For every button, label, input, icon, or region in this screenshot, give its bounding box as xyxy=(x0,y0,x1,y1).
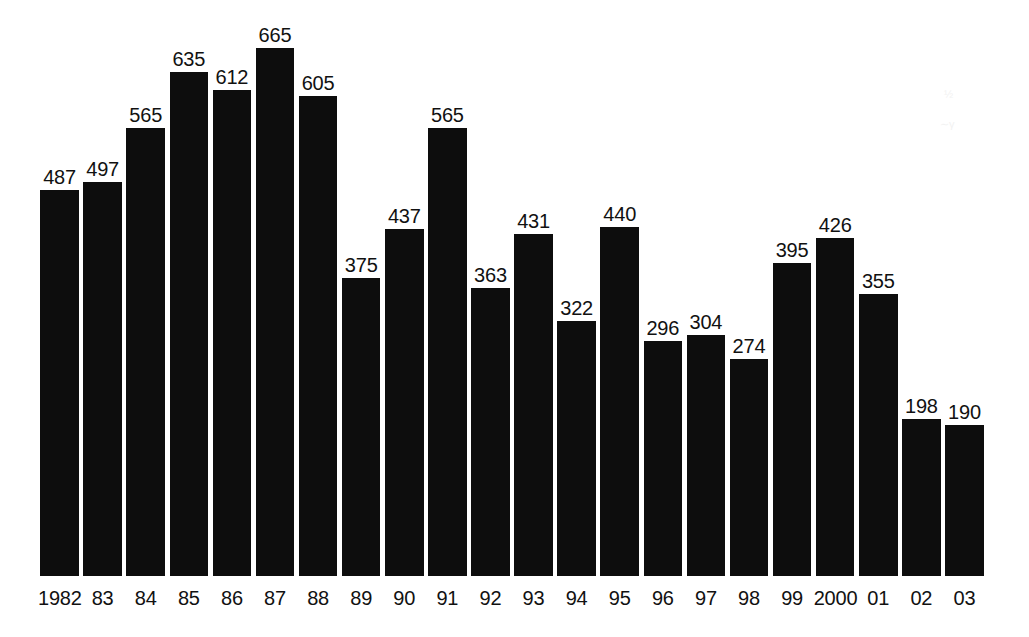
bar xyxy=(816,238,855,576)
bar xyxy=(342,278,381,576)
bar-value-label: 437 xyxy=(388,206,421,226)
x-tick-label-88: 88 xyxy=(297,586,340,610)
bar-group: 322 xyxy=(557,0,596,576)
x-tick-label-87: 87 xyxy=(253,586,296,610)
x-tick-label-2000: 2000 xyxy=(814,586,857,610)
x-tick-label-89: 89 xyxy=(340,586,383,610)
bar-group: 304 xyxy=(687,0,726,576)
bar-group: 487 xyxy=(40,0,79,576)
x-tick-label-01: 01 xyxy=(857,586,900,610)
bar-group: 431 xyxy=(514,0,553,576)
bar xyxy=(859,294,898,576)
bar-group: 437 xyxy=(385,0,424,576)
bar xyxy=(40,190,79,576)
bar-group: 565 xyxy=(428,0,467,576)
x-tick-label-93: 93 xyxy=(512,586,555,610)
x-tick-label-96: 96 xyxy=(641,586,684,610)
bar-group: 274 xyxy=(730,0,769,576)
bar-group: 440 xyxy=(600,0,639,576)
bar-value-label: 426 xyxy=(819,215,852,235)
bar-group: 198 xyxy=(902,0,941,576)
bar xyxy=(600,227,639,576)
x-tick-label-91: 91 xyxy=(426,586,469,610)
bar-group: 355 xyxy=(859,0,898,576)
bar xyxy=(644,341,683,576)
bar-value-label: 605 xyxy=(302,73,335,93)
x-tick-label-83: 83 xyxy=(81,586,124,610)
bar-value-label: 274 xyxy=(733,336,766,356)
bar-value-label: 440 xyxy=(603,204,636,224)
bar xyxy=(126,128,165,576)
x-tick-label-90: 90 xyxy=(383,586,426,610)
bar-group: 190 xyxy=(945,0,984,576)
bar xyxy=(385,229,424,576)
bar xyxy=(213,90,252,576)
bar-value-label: 355 xyxy=(862,271,895,291)
x-tick-label-03: 03 xyxy=(943,586,986,610)
bar-value-label: 375 xyxy=(345,255,378,275)
bar-chart: 4874975656356126656053754375653634313224… xyxy=(0,0,1029,637)
bar xyxy=(557,321,596,577)
bar-group: 426 xyxy=(816,0,855,576)
x-tick-label-84: 84 xyxy=(124,586,167,610)
bar xyxy=(428,128,467,576)
x-tick-label-85: 85 xyxy=(167,586,210,610)
scan-speckle-icon: ½ xyxy=(944,88,953,100)
bar-group: 665 xyxy=(256,0,295,576)
x-tick-label-1982: 1982 xyxy=(38,586,81,610)
bar-value-label: 565 xyxy=(129,105,162,125)
bar-value-label: 363 xyxy=(474,265,507,285)
bar xyxy=(299,96,338,576)
x-tick-label-97: 97 xyxy=(684,586,727,610)
x-tick-label-95: 95 xyxy=(598,586,641,610)
x-tick-label-02: 02 xyxy=(900,586,943,610)
bar-value-label: 304 xyxy=(690,312,723,332)
bar-value-label: 565 xyxy=(431,105,464,125)
bar-group: 565 xyxy=(126,0,165,576)
bar-group: 375 xyxy=(342,0,381,576)
bar-value-label: 497 xyxy=(86,159,119,179)
bar xyxy=(471,288,510,576)
x-tick-label-99: 99 xyxy=(771,586,814,610)
bar xyxy=(170,72,209,576)
bar-group: 363 xyxy=(471,0,510,576)
bar xyxy=(730,359,769,576)
bar-value-label: 431 xyxy=(517,211,550,231)
bar-group: 395 xyxy=(773,0,812,576)
bar-value-label: 487 xyxy=(43,167,76,187)
bar xyxy=(902,419,941,576)
bar-value-label: 190 xyxy=(948,402,981,422)
x-tick-label-92: 92 xyxy=(469,586,512,610)
scan-speckle-icon: ∼γ xyxy=(940,118,955,131)
bar-value-label: 296 xyxy=(646,318,679,338)
bar xyxy=(256,48,295,576)
bar-value-label: 635 xyxy=(172,49,205,69)
x-axis-labels: 1982838485868788899091929394959697989920… xyxy=(38,586,986,616)
plot-area: 4874975656356126656053754375653634313224… xyxy=(38,0,986,576)
bar-value-label: 665 xyxy=(259,25,292,45)
bar-group: 497 xyxy=(83,0,122,576)
bar-value-label: 395 xyxy=(776,240,809,260)
x-tick-label-94: 94 xyxy=(555,586,598,610)
bar xyxy=(687,335,726,576)
bar-value-label: 322 xyxy=(560,298,593,318)
bar xyxy=(945,425,984,576)
x-tick-label-86: 86 xyxy=(210,586,253,610)
bar xyxy=(514,234,553,576)
bar-value-label: 612 xyxy=(216,67,249,87)
bar xyxy=(773,263,812,576)
bar-group: 635 xyxy=(170,0,209,576)
bar-group: 605 xyxy=(299,0,338,576)
x-tick-label-98: 98 xyxy=(727,586,770,610)
bar-value-label: 198 xyxy=(905,396,938,416)
bar xyxy=(83,182,122,576)
bar-group: 296 xyxy=(644,0,683,576)
bar-group: 612 xyxy=(213,0,252,576)
